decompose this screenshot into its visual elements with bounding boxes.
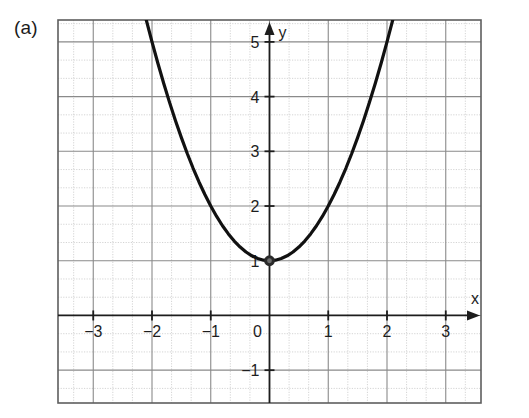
y-tick-label: 3 (251, 143, 260, 160)
x-tick-label: 3 (441, 323, 450, 340)
x-tick-label: 1 (324, 323, 333, 340)
x-tick-label: −3 (84, 323, 102, 340)
x-tick-label: −1 (202, 323, 220, 340)
x-axis-label: x (471, 290, 479, 307)
y-tick-label: 4 (251, 89, 260, 106)
figure-panel: (a) xy−3−2−10123−112345 (0, 0, 529, 418)
y-tick-label: −1 (241, 362, 259, 379)
y-tick-label: 5 (251, 34, 260, 51)
x-tick-label: 0 (253, 323, 262, 340)
y-tick-label: 2 (251, 198, 260, 215)
vertex-point[interactable] (264, 255, 275, 266)
vertex-point-inner (267, 258, 272, 263)
x-tick-label: −2 (143, 323, 161, 340)
x-tick-label: 2 (383, 323, 392, 340)
plot-area: xy−3−2−10123−112345 (0, 0, 529, 418)
y-axis-label: y (279, 24, 287, 41)
